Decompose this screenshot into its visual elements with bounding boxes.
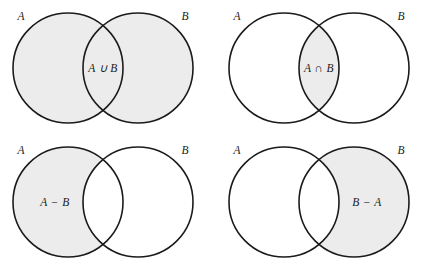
venn-panel-intersection: A B A ∩ B [216,0,431,134]
operation-label-intersection: A ∩ B [303,62,334,74]
operation-label-b-minus-a: B − A [352,196,382,208]
operation-label-a-minus-b: A − B [39,196,69,208]
set-a-label: A [232,10,241,22]
venn-panel-a-minus-b: A B A − B [0,134,215,268]
venn-panel-b-minus-a: A B B − A [216,134,431,268]
set-b-label: B [181,144,188,156]
set-b-label: B [181,10,188,22]
set-b-label: B [397,144,404,156]
set-a-label: A [16,10,25,22]
set-b-label: B [397,10,404,22]
venn-panel-union: A B A ∪ B [0,0,215,134]
set-a-label: A [16,144,25,156]
venn-diagram-figure: A B A ∪ B A B A ∩ B [0,0,431,268]
operation-label-union: A ∪ B [87,62,118,74]
set-a-label: A [232,144,241,156]
